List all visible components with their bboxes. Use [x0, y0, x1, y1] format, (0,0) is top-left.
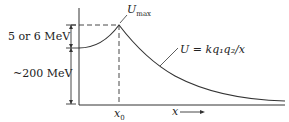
- barrier-height-label: 5 or 6 MeV: [8, 31, 70, 42]
- fission-potential-diagram: Umax U = kq₁q₂/x 5 or 6 MeV ~200 MeV x0 …: [0, 0, 289, 122]
- diagram-graphics: [0, 0, 289, 122]
- potential-curve: [79, 25, 285, 101]
- formula-leader: [160, 48, 178, 66]
- energy-release-label: ~200 MeV: [13, 68, 72, 79]
- umax-leader: [120, 15, 127, 23]
- umax-label: Umax: [127, 4, 151, 18]
- x0-label: x0: [114, 108, 125, 122]
- formula-label: U = kq₁q₂/x: [180, 44, 245, 55]
- x-axis-label: x: [172, 106, 178, 117]
